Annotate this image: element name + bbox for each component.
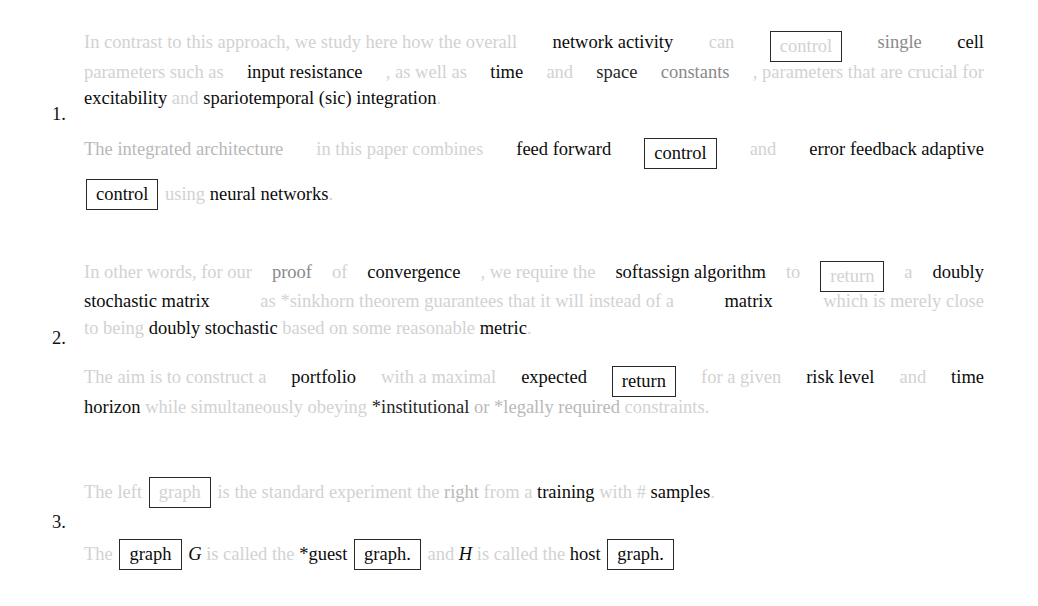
text-line: horizon while simultaneously obeying *in… <box>84 396 709 418</box>
highlighted-target-word: return <box>820 261 884 292</box>
weighted-word: feed forward <box>516 138 611 169</box>
highlighted-target-word: graph. <box>607 539 674 570</box>
weighted-word: The left <box>84 482 142 502</box>
highlighted-target-word: control <box>770 31 842 62</box>
weighted-word: The integrated architecture <box>84 138 283 169</box>
weighted-word: a <box>904 261 912 292</box>
weighted-word: time <box>490 61 523 83</box>
weighted-word: . <box>527 318 532 338</box>
weighted-word: proof <box>272 261 312 292</box>
text-line: excitability and spariotemporal (sic) in… <box>84 87 441 109</box>
weighted-word: doubly <box>933 261 984 292</box>
highlighted-target-word: graph <box>149 477 211 508</box>
text-line: control using neural networks. <box>84 179 333 210</box>
weighted-word: or *legally required <box>474 397 620 417</box>
weighted-word: input resistance <box>247 61 363 83</box>
weighted-word: to <box>786 261 800 292</box>
weighted-word: convergence <box>367 261 460 292</box>
weighted-word: space <box>596 61 637 83</box>
weighted-word: , parameters that are crucial for <box>753 61 984 83</box>
math-symbol: H <box>459 544 472 564</box>
weighted-word: . <box>710 482 715 502</box>
text-line: The aim is to construct aportfoliowith a… <box>84 366 984 397</box>
weighted-word: *guest <box>299 544 347 564</box>
weighted-word: in this paper combines <box>316 138 483 169</box>
weighted-word: training <box>537 482 595 502</box>
weighted-word: which is merely close <box>823 290 984 312</box>
weighted-word: The aim is to construct a <box>84 366 266 397</box>
weighted-word: neural networks <box>210 184 329 204</box>
weighted-word: . <box>328 184 333 204</box>
weighted-word: expected <box>521 366 587 397</box>
highlighted-target-word: graph. <box>354 539 421 570</box>
highlighted-target-word: control <box>644 138 716 169</box>
weighted-word: can <box>709 31 735 62</box>
weighted-word: using <box>165 184 205 204</box>
weighted-word: constants <box>661 61 730 83</box>
weighted-word: network activity <box>553 31 674 62</box>
weighted-word: metric <box>480 318 527 338</box>
weighted-word: horizon <box>84 397 141 417</box>
weighted-word: is the standard experiment the <box>217 482 439 502</box>
weighted-word: as *sinkhorn theorem guarantees that it … <box>260 290 674 312</box>
weighted-word: parameters such as <box>84 61 224 83</box>
text-line: In contrast to this approach, we study h… <box>84 31 984 62</box>
weighted-word: stochastic matrix <box>84 290 210 312</box>
weighted-word: right <box>444 482 479 502</box>
weighted-word: and <box>899 366 926 397</box>
math-symbol: G <box>188 544 201 564</box>
weighted-word: constraints. <box>625 397 710 417</box>
weighted-word: . <box>436 88 441 108</box>
weighted-word: is called the <box>206 544 294 564</box>
text-line: stochastic matrixas *sinkhorn theorem gu… <box>84 290 984 312</box>
weighted-word: from a <box>484 482 533 502</box>
weighted-word: and <box>172 88 199 108</box>
weighted-word: matrix <box>724 290 772 312</box>
example-number: 3. <box>52 512 66 533</box>
highlighted-target-word: return <box>612 366 676 397</box>
example-number: 1. <box>52 104 66 125</box>
weighted-word: time <box>951 366 984 397</box>
text-line: In other words, for ourproofofconvergenc… <box>84 261 984 292</box>
text-line: parameters such asinput resistance, as w… <box>84 61 984 83</box>
weighted-word: while simultaneously obeying <box>145 397 367 417</box>
weighted-word: to being <box>84 318 144 338</box>
weighted-word: based on some reasonable <box>282 318 475 338</box>
weighted-word: and <box>427 544 454 564</box>
example-number: 2. <box>52 328 66 349</box>
weighted-word: error feedback adaptive <box>809 138 984 169</box>
weighted-word: and <box>750 138 777 169</box>
weighted-word: , as well as <box>386 61 467 83</box>
weighted-word: is called the <box>477 544 565 564</box>
text-line: to being doubly stochastic based on some… <box>84 317 532 339</box>
weighted-word: for a given <box>701 366 781 397</box>
weighted-word: The <box>84 544 113 564</box>
weighted-word: with # <box>599 482 646 502</box>
weighted-word: , we require the <box>480 261 595 292</box>
text-line: The left graph is the standard experimen… <box>84 477 715 508</box>
weighted-word: *institutional <box>372 397 470 417</box>
weighted-word: host <box>570 544 601 564</box>
weighted-word: cell <box>957 31 984 62</box>
weighted-word: In contrast to this approach, we study h… <box>84 31 517 62</box>
weighted-word: with a maximal <box>381 366 496 397</box>
highlighted-target-word: graph <box>119 539 181 570</box>
weighted-word: portfolio <box>291 366 356 397</box>
weighted-word: In other words, for our <box>84 261 252 292</box>
highlighted-target-word: control <box>86 179 158 210</box>
weighted-word: risk level <box>806 366 874 397</box>
text-line: The graph G is called the *guest graph. … <box>84 539 676 570</box>
weighted-word: excitability <box>84 88 167 108</box>
weighted-word: spariotemporal (sic) integration <box>203 88 436 108</box>
weighted-word: samples <box>651 482 711 502</box>
weighted-word: of <box>332 261 347 292</box>
weighted-word: softassign algorithm <box>615 261 766 292</box>
text-line: The integrated architecturein this paper… <box>84 138 984 169</box>
weighted-word: doubly stochastic <box>149 318 278 338</box>
weighted-word: and <box>546 61 573 83</box>
weighted-word: single <box>878 31 922 62</box>
